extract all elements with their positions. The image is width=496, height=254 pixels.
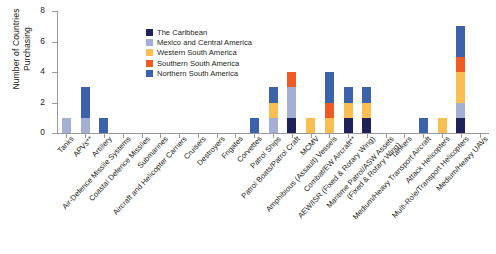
y-tick: 2 [52, 103, 58, 104]
bar-artillery [99, 118, 108, 133]
bar-segment [81, 118, 90, 133]
bar-segment [456, 57, 465, 72]
y-tick-label: 2 [25, 97, 45, 107]
y-tick-label: 0 [25, 127, 45, 137]
legend-item: Southern South America [146, 58, 276, 68]
bar-segment [419, 118, 428, 133]
bar-segment [362, 87, 371, 102]
chart-legend: The CaribbeanMexico and Central AmericaW… [146, 28, 276, 78]
y-tick-label: 8 [25, 5, 45, 15]
stacked-bar-chart: Number of Countries Purchasing 02468 Tan… [0, 0, 496, 254]
bar-segment [250, 118, 259, 133]
bar-segment [325, 103, 334, 118]
bar-apvs [81, 87, 90, 133]
bar-aew-isr-fixed-rotary-wing [362, 87, 371, 133]
bar-attack-helicopters [438, 118, 447, 133]
bar-segment [362, 118, 371, 133]
bar-patrol-ships [269, 87, 278, 133]
bar-mcmv [306, 118, 315, 133]
bar-patrol-boats-patrol-craft [287, 72, 296, 133]
x-axis-label-group: TanksAPVs**ArtilleryAir-Defence Missile … [57, 135, 496, 253]
bar-segment [287, 87, 296, 118]
bar-segment [287, 118, 296, 133]
y-tick: 0 [52, 133, 58, 134]
y-axis-line [57, 12, 58, 134]
legend-label: The Caribbean [157, 28, 207, 37]
bar-segment [344, 87, 353, 102]
legend-label: Northern South America [157, 69, 238, 78]
legend-swatch-icon [146, 39, 153, 46]
bar-segment [456, 103, 465, 118]
legend-item: The Caribbean [146, 28, 276, 38]
y-tick: 6 [52, 42, 58, 43]
y-tick: 8 [52, 11, 58, 12]
legend-label: Western South America [157, 48, 237, 57]
bar-segment [362, 103, 371, 118]
legend-swatch-icon [146, 60, 153, 67]
legend-item: Northern South America [146, 68, 276, 78]
bar-segment [438, 118, 447, 133]
legend-swatch-icon [146, 29, 153, 36]
bar-segment [456, 26, 465, 57]
bar-segment [344, 103, 353, 118]
bar-segment [81, 87, 90, 118]
bar-segment [99, 118, 108, 133]
legend-swatch-icon [146, 49, 153, 56]
legend-label: Mexico and Central America [157, 38, 252, 47]
bar-segment [325, 118, 334, 133]
bar-segment [269, 103, 278, 118]
bar-segment [344, 118, 353, 133]
bar-corvettes [250, 118, 259, 133]
bar-combat-ew-aircraft [344, 87, 353, 133]
bar-segment [456, 72, 465, 103]
bar-segment [287, 72, 296, 87]
bar-multi-role-transport-helicopters [456, 26, 465, 133]
legend-item: Mexico and Central America [146, 38, 276, 48]
legend-swatch-icon [146, 70, 153, 77]
y-tick-label: 6 [25, 36, 45, 46]
bar-tanks [62, 118, 71, 133]
bar-segment [269, 87, 278, 102]
bar-segment [325, 72, 334, 103]
legend-label: Southern South America [157, 59, 239, 68]
bar-medium-heavy-transport-aircraft [419, 118, 428, 133]
y-tick: 4 [52, 72, 58, 73]
bar-segment [306, 118, 315, 133]
bar-segment [62, 118, 71, 133]
bar-segment [269, 118, 278, 133]
y-tick-label: 4 [25, 66, 45, 76]
bar-segment [456, 118, 465, 133]
legend-item: Western South America [146, 48, 276, 58]
bar-amphibious-assault-vessels [325, 72, 334, 133]
